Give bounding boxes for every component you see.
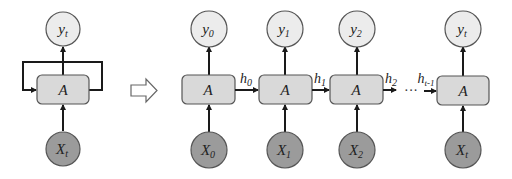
hidden-label: h0 [240, 71, 252, 88]
rnn-diagram: yt A Xt y0 A X0 h0 y1 A [0, 0, 512, 179]
hidden-label: ht-1 [418, 71, 435, 88]
cell-label: A [457, 83, 468, 99]
cell-label: A [279, 82, 290, 98]
cell-label: A [202, 82, 213, 98]
unroll-arrow-icon [131, 79, 157, 102]
cell-label: A [350, 82, 361, 98]
hidden-label: h2 [385, 71, 397, 88]
ellipsis: ··· [404, 83, 418, 98]
unrolled-rnn: y0 A X0 h0 y1 A X1 h1 y2 [182, 11, 489, 168]
time-step-2: y2 A X2 h2 [330, 11, 397, 168]
time-step-1: y1 A X1 h1 [259, 11, 329, 168]
time-step-0: y0 A X0 h0 [182, 11, 258, 168]
time-step-t: ht-1 yt A Xt [418, 11, 490, 168]
cell-label: A [57, 82, 68, 98]
hidden-label: h1 [314, 71, 326, 88]
folded-rnn: yt A Xt [23, 12, 102, 166]
